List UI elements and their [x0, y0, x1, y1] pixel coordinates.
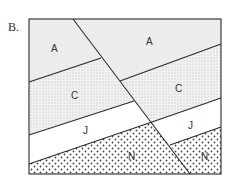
label-j-right: J — [188, 120, 193, 131]
label-n-right: N — [201, 151, 208, 162]
label-c-right: C — [175, 83, 182, 94]
label-a-left: A — [51, 43, 58, 54]
label-c-left: C — [71, 90, 78, 101]
geologic-cross-section: A A C C J J N N — [0, 0, 236, 186]
label-a-right: A — [146, 36, 153, 47]
label-j-left: J — [83, 125, 88, 136]
label-n-left: N — [128, 151, 135, 162]
